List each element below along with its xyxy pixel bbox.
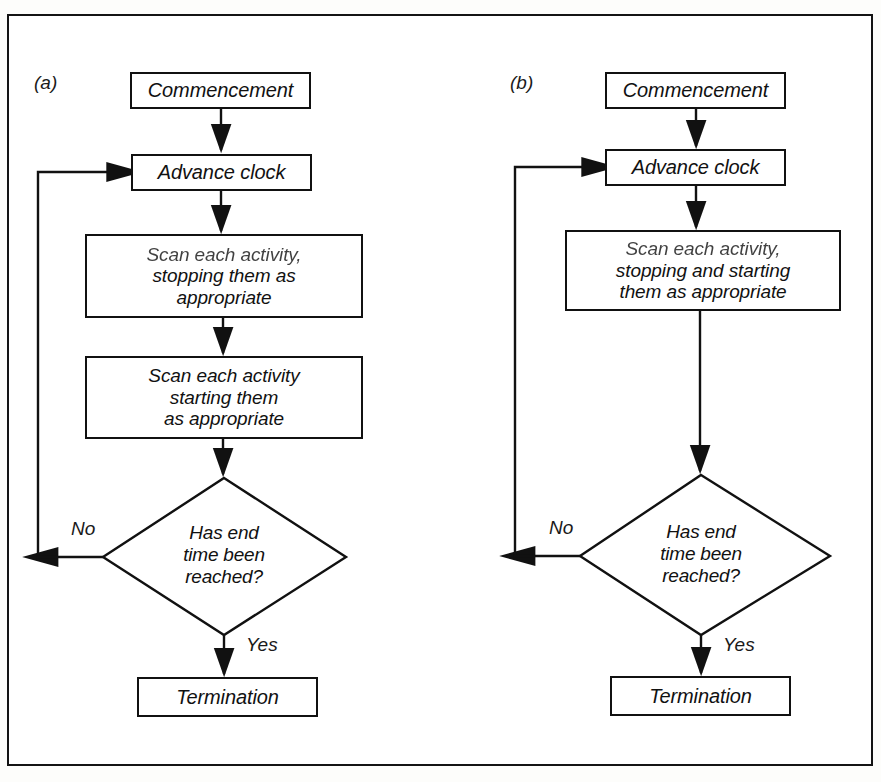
- node-a-decision-line-2: time been: [183, 544, 265, 565]
- node-a-scan-stopping-line-1: Scan each activity,: [146, 244, 301, 265]
- node-a-scan-starting-line-3: as appropriate: [164, 408, 284, 429]
- node-b-decision-line-2: time been: [660, 543, 742, 564]
- node-a-scan-stopping-line-2: stopping them as: [152, 265, 295, 286]
- node-a-scan-stopping-label: Scan each activity, stopping them as app…: [142, 244, 305, 308]
- node-a-scan-starting-line-1: Scan each activity: [148, 365, 299, 386]
- node-b-scan-line-3: them as appropriate: [619, 281, 786, 302]
- node-b-advance-clock-label: Advance clock: [628, 156, 764, 179]
- edge-label-b-no: No: [549, 517, 573, 539]
- node-b-scan-line-1: Scan each activity,: [625, 238, 780, 259]
- node-a-decision-line-3: reached?: [185, 566, 263, 587]
- edge-b-no-feedback-riser: [515, 167, 583, 556]
- node-a-termination: Termination: [137, 677, 318, 717]
- node-b-scan-label: Scan each activity, stopping and startin…: [612, 238, 794, 302]
- panel-label-b: (b): [510, 72, 533, 94]
- node-b-decision-text: Has end time been reached?: [631, 521, 771, 587]
- panel-label-a: (a): [34, 72, 57, 94]
- node-a-commencement: Commencement: [130, 72, 311, 109]
- node-b-advance-clock: Advance clock: [605, 149, 786, 186]
- node-a-scan-stopping-line-3: appropriate: [176, 287, 271, 308]
- node-a-scan-starting-label: Scan each activity starting them as appr…: [144, 365, 303, 429]
- edge-label-a-no: No: [71, 518, 95, 540]
- node-a-scan-stopping: Scan each activity, stopping them as app…: [85, 234, 363, 318]
- node-b-decision-line-3: reached?: [662, 565, 740, 586]
- node-a-decision-line-1: Has end: [189, 522, 258, 543]
- node-b-termination: Termination: [610, 676, 791, 716]
- edge-label-b-yes: Yes: [723, 634, 755, 656]
- node-b-scan-stopping-starting: Scan each activity, stopping and startin…: [565, 230, 841, 311]
- figure-canvas: (a) Commencement Advance clock Scan each…: [0, 0, 881, 782]
- node-b-termination-label: Termination: [645, 685, 756, 708]
- node-a-scan-starting: Scan each activity starting them as appr…: [85, 356, 363, 439]
- node-a-commencement-label: Commencement: [144, 79, 298, 102]
- edge-label-a-yes: Yes: [246, 634, 278, 656]
- node-b-commencement: Commencement: [605, 72, 786, 109]
- node-b-scan-line-2: stopping and starting: [616, 260, 790, 281]
- node-a-scan-starting-line-2: starting them: [170, 387, 279, 408]
- node-b-commencement-label: Commencement: [619, 79, 773, 102]
- node-a-advance-clock-label: Advance clock: [154, 161, 290, 184]
- node-a-termination-label: Termination: [172, 686, 283, 709]
- node-a-decision-text: Has end time been reached?: [154, 522, 294, 588]
- node-a-advance-clock: Advance clock: [131, 154, 312, 191]
- node-b-decision-line-1: Has end: [666, 521, 735, 542]
